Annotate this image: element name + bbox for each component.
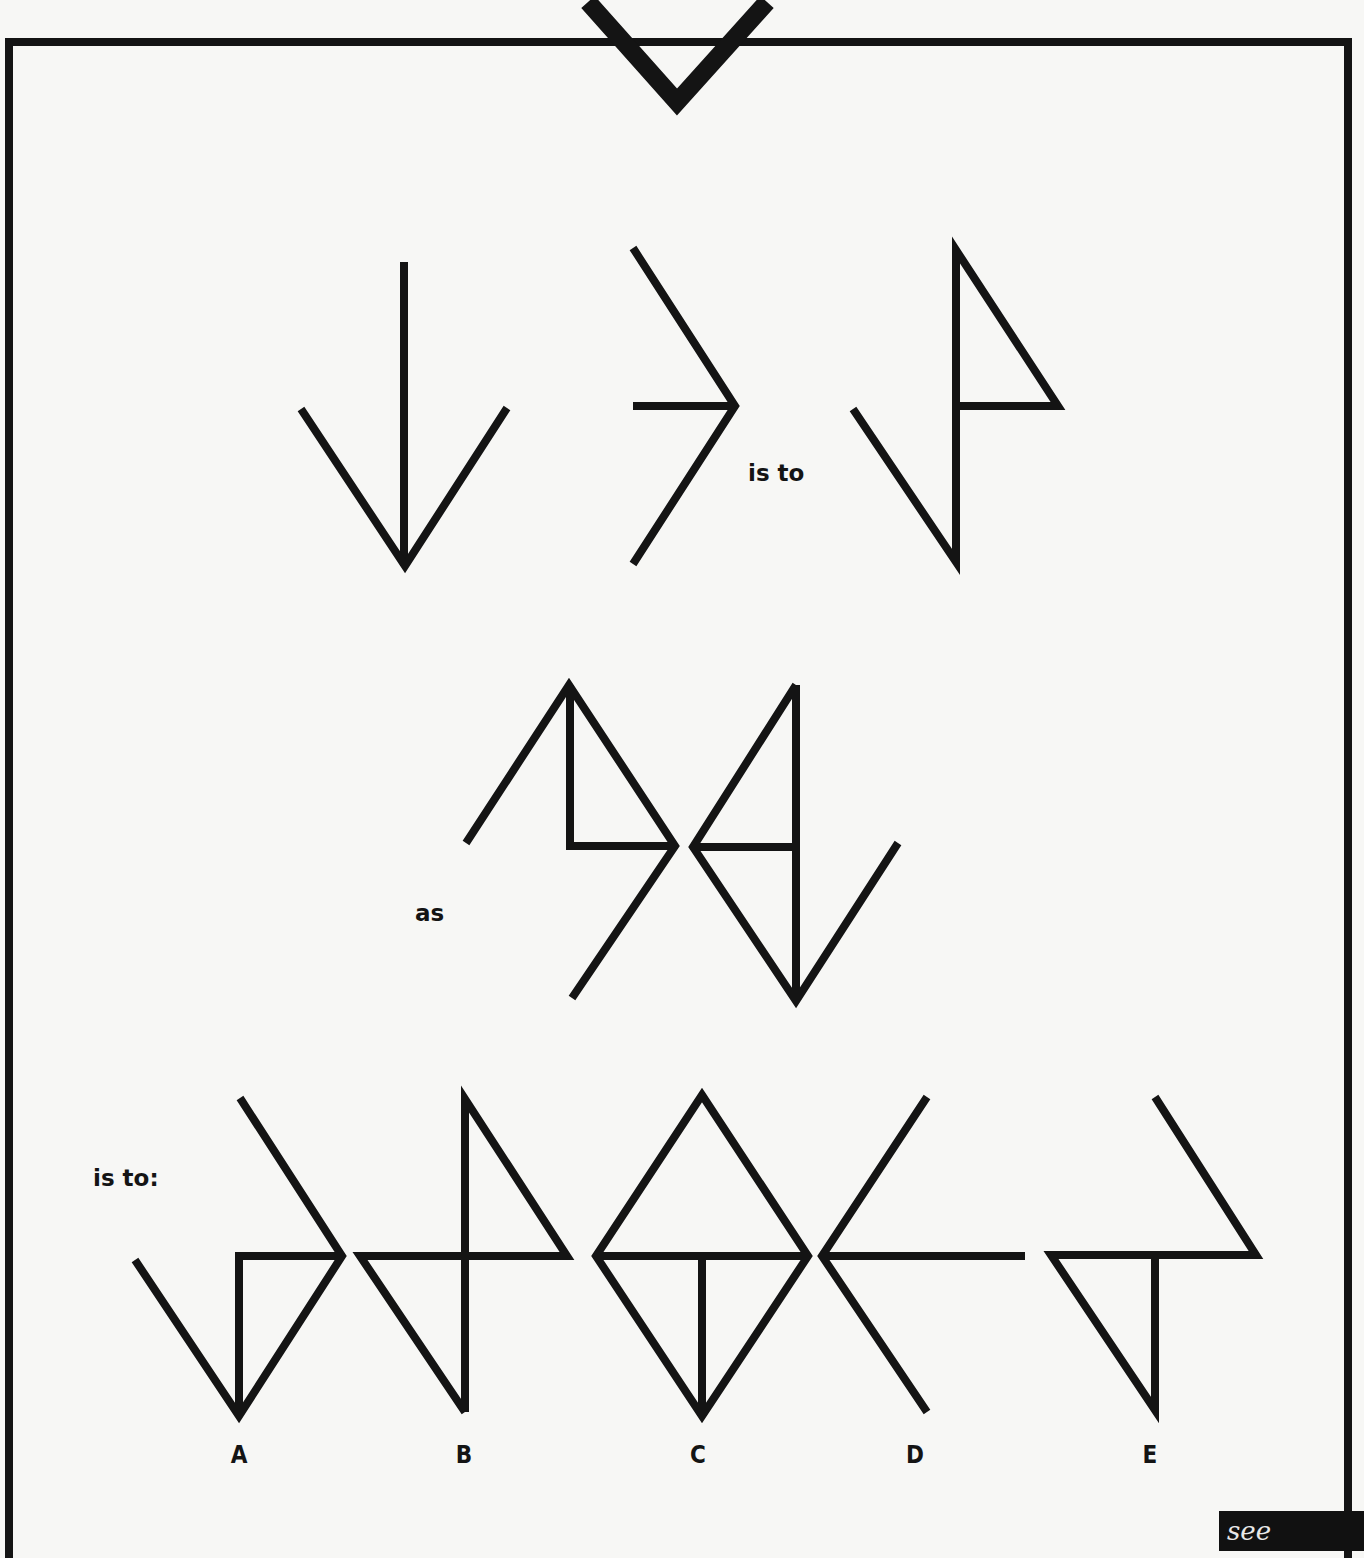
option-b-figure[interactable] [360, 1099, 567, 1412]
option-d-figure[interactable] [822, 1097, 1025, 1412]
option-e-label[interactable]: E [1143, 1441, 1158, 1469]
option-d-label[interactable]: D [906, 1441, 924, 1469]
connector-is-to: is to [748, 460, 804, 486]
connector-as: as [415, 900, 444, 926]
option-a-label[interactable]: A [231, 1441, 248, 1469]
option-e-figure[interactable] [1051, 1097, 1256, 1410]
option-c-figure[interactable] [596, 1095, 808, 1416]
figure-3 [853, 250, 1058, 562]
figure-2 [633, 248, 735, 564]
see-answer-button[interactable]: see answer [1219, 1511, 1364, 1551]
option-b-label[interactable]: B [456, 1441, 472, 1469]
chevron-down-icon [588, 2, 767, 102]
connector-is-to-options: is to: [93, 1165, 159, 1191]
figure-4 [466, 685, 898, 1001]
figure-1-down-arrow [301, 262, 507, 566]
option-c-label[interactable]: C [690, 1441, 706, 1469]
option-a-figure[interactable] [135, 1098, 342, 1416]
